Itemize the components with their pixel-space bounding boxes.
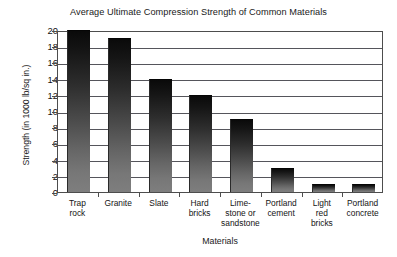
x-tick-mark — [179, 193, 180, 197]
bar-slot — [58, 32, 99, 192]
x-category-label: Traprock — [54, 198, 100, 218]
bar-trap-rock — [67, 30, 90, 192]
x-tick-mark — [302, 193, 303, 197]
x-category-label: Lightredbricks — [299, 198, 345, 229]
bar-hard-bricks — [189, 95, 212, 192]
bar-portland-cement — [271, 168, 294, 192]
bar-granite — [108, 38, 131, 192]
x-category-label: Slate — [136, 198, 182, 208]
x-tick-mark — [261, 193, 262, 197]
bar-portland-concrete — [352, 184, 375, 192]
bar-slot — [221, 32, 262, 192]
x-category-label: Hardbricks — [177, 198, 223, 218]
x-category-label: Portlandconcrete — [340, 198, 386, 218]
bar-slot — [303, 32, 344, 192]
bar-slot — [140, 32, 181, 192]
bar-slate — [149, 79, 172, 192]
bar-chart-figure: Average Ultimate Compression Strength of… — [0, 0, 397, 257]
bar-lime-stone-or-sandstone — [230, 119, 253, 192]
x-tick-mark — [98, 193, 99, 197]
x-category-label: Portlandcement — [258, 198, 304, 218]
chart-title: Average Ultimate Compression Strength of… — [0, 7, 397, 17]
x-tick-mark — [220, 193, 221, 197]
bar-slot — [343, 32, 384, 192]
bars-layer — [58, 32, 382, 192]
x-tick-mark — [139, 193, 140, 197]
x-axis-title: Materials — [57, 236, 383, 246]
plot-area — [57, 31, 383, 193]
x-category-label: Lime-stone orsandstone — [217, 198, 263, 229]
x-tick-mark — [342, 193, 343, 197]
x-category-label: Granite — [95, 198, 141, 208]
bar-slot — [99, 32, 140, 192]
bar-light-red-bricks — [312, 184, 335, 192]
y-tick-mark — [52, 193, 57, 194]
bar-slot — [262, 32, 303, 192]
bar-slot — [180, 32, 221, 192]
